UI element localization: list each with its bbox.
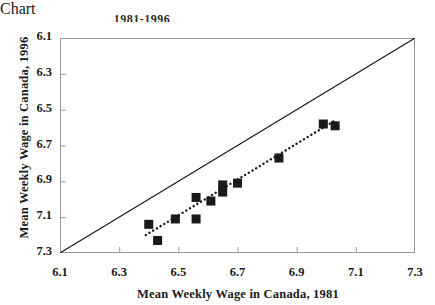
x-axis-title: Mean Weekly Wage in Canada, 1981 (60, 287, 416, 302)
data-point-marker[interactable] (319, 120, 328, 129)
data-point-marker[interactable] (331, 121, 340, 130)
y-axis-tick-label: 7.1 (8, 208, 52, 223)
data-point-marker[interactable] (206, 197, 215, 206)
x-axis-tick-label: 6.9 (277, 265, 317, 280)
plot-area (60, 38, 415, 253)
data-point-marker[interactable] (192, 214, 201, 223)
x-axis-tick-label: 6.1 (40, 265, 80, 280)
data-point-marker[interactable] (274, 154, 283, 163)
data-point-marker[interactable] (233, 179, 242, 188)
data-point-marker[interactable] (218, 188, 227, 197)
y-axis-tick-label: 7.3 (8, 244, 52, 259)
data-point-marker[interactable] (153, 236, 162, 245)
x-axis-tick-label: 7.3 (395, 265, 435, 280)
y-axis-tick-label: 6.3 (8, 65, 52, 80)
chart-figure: 1981-1996 Mean Weekly Wage in Canada, 19… (0, 18, 435, 305)
x-axis-tick-label: 6.5 (158, 265, 198, 280)
x-axis-tick-label: 7.1 (336, 265, 376, 280)
x-axis-tick-label: 6.3 (99, 265, 139, 280)
chart-title: 1981-1996 (62, 12, 222, 22)
y-axis-tick-label: 6.7 (8, 137, 52, 152)
y-axis-tick-label: 6.5 (8, 101, 52, 116)
y-axis-tick-label: 6.9 (8, 172, 52, 187)
reference-line (60, 38, 415, 253)
y-axis-tick-label: 6.1 (8, 29, 52, 44)
x-axis-tick-label: 6.7 (218, 265, 258, 280)
data-point-marker[interactable] (144, 220, 153, 229)
data-point-marker[interactable] (192, 193, 201, 202)
plot-canvas (60, 38, 415, 253)
data-point-marker[interactable] (171, 214, 180, 223)
